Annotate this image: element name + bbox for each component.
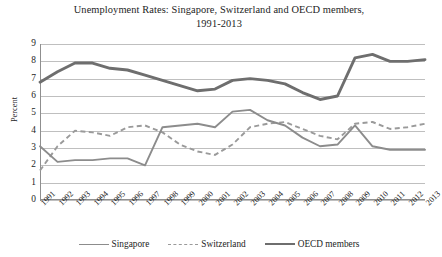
chart-legend: Singapore Switzerland OECD members	[0, 235, 438, 253]
legend-swatch-singapore-icon	[79, 244, 109, 245]
legend-item-oecd: OECD members	[265, 239, 360, 249]
legend-item-switzerland: Switzerland	[168, 239, 245, 249]
legend-swatch-switzerland-icon	[168, 244, 198, 245]
line-oecd-members	[40, 54, 425, 99]
legend-label-switzerland: Switzerland	[201, 239, 245, 249]
legend-swatch-oecd-icon	[265, 243, 295, 245]
legend-label-oecd-members: OECD members	[298, 239, 360, 249]
legend-item-singapore: Singapore	[79, 239, 150, 249]
line-switzerland	[40, 122, 425, 171]
line-singapore	[40, 110, 425, 165]
legend-label-singapore: Singapore	[112, 239, 150, 249]
